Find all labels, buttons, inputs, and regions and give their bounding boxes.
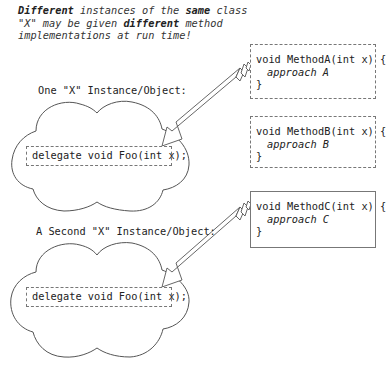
method-c-close-brace: } bbox=[256, 225, 375, 238]
method-a-signature: void MethodA(int x) { bbox=[256, 53, 375, 66]
instance-2-label: A Second "X" Instance/Object: bbox=[36, 225, 216, 237]
method-c-body: approach C bbox=[256, 213, 375, 226]
method-b-box: void MethodB(int x) { approach B } bbox=[250, 116, 376, 168]
method-a-box: void MethodA(int x) { approach A } bbox=[250, 44, 376, 99]
instance-1-label: One "X" Instance/Object: bbox=[38, 84, 187, 96]
instance-2-delegate-box: delegate void Foo(int x); bbox=[26, 287, 172, 307]
method-b-signature: void MethodB(int x) { bbox=[256, 125, 375, 138]
method-b-body: approach B bbox=[256, 138, 375, 151]
instance-1-delegate-box: delegate void Foo(int x); bbox=[26, 146, 172, 166]
method-b-close-brace: } bbox=[256, 150, 375, 163]
delegate-diagram: Different instances of the same class "X… bbox=[0, 0, 389, 372]
arrow-method-a-to-instance-1 bbox=[162, 62, 251, 146]
method-c-box: void MethodC(int x) { approach C } bbox=[250, 191, 376, 248]
method-c-signature: void MethodC(int x) { bbox=[256, 200, 375, 213]
method-a-close-brace: } bbox=[256, 78, 375, 91]
arrow-method-c-to-instance-2 bbox=[162, 201, 251, 287]
method-a-body: approach A bbox=[256, 66, 375, 79]
